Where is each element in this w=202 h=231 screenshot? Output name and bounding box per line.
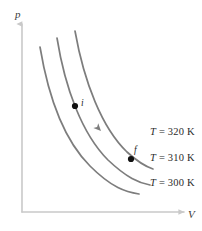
volume-axis-label: V [188,208,195,220]
isotherm-310k-value: = 310 K [159,152,195,163]
isotherm-320k-symbol: T [150,126,156,137]
isotherm-300k-label: T = 300 K [150,177,195,188]
diagram-canvas [0,0,202,231]
state-points-group [72,103,134,162]
isotherm-310k-label: T = 310 K [150,152,195,163]
isotherm-310k-symbol: T [150,152,156,163]
point-f-marker [128,156,134,162]
isotherm-300k-symbol: T [150,177,156,188]
process-direction-arrow [93,123,103,133]
pv-diagram-figure: p V T = 320 K T = 310 K T = 300 K i f [0,0,202,231]
isotherm-310k-curve [57,38,150,185]
point-i-label: i [81,98,84,108]
isotherm-320k-value: = 320 K [159,126,195,137]
pressure-axis-label: p [15,8,21,20]
isotherm-300k-value: = 300 K [159,177,195,188]
point-i-marker [72,103,78,109]
isotherm-320k-curve [75,31,153,169]
isotherm-300k-curve [40,47,139,194]
point-f-label: f [134,145,137,155]
isotherm-curves-group [40,31,153,194]
isotherm-320k-label: T = 320 K [150,126,195,137]
